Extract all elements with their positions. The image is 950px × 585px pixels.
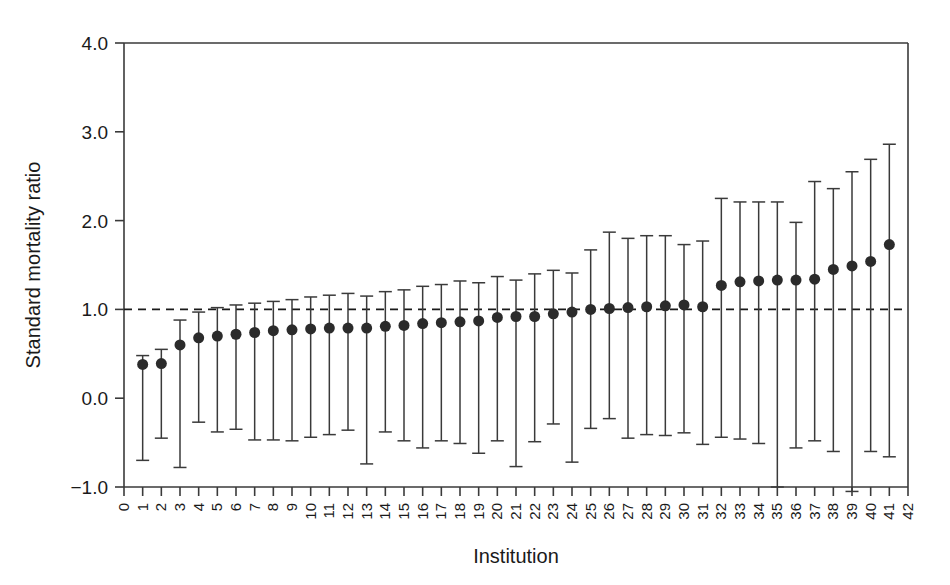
x-tick-label: 11 (320, 503, 337, 519)
x-tick-label: 30 (675, 503, 692, 520)
y-tick-label: 0.0 (82, 388, 108, 409)
x-tick-label: 26 (600, 503, 617, 520)
data-point-marker (231, 329, 242, 340)
data-point-marker (511, 311, 522, 322)
data-point-marker (156, 358, 167, 369)
data-point-marker (212, 331, 223, 342)
x-tick-label: 31 (694, 503, 711, 520)
x-tick-label: 16 (414, 503, 431, 520)
forest-plot-svg: −1.00.01.02.03.04.0 01234567891011121314… (0, 0, 950, 585)
data-point-marker (791, 275, 802, 286)
x-tick-label: 12 (339, 503, 356, 520)
x-tick-label: 25 (582, 503, 599, 520)
y-tick-label: 1.0 (82, 299, 108, 320)
x-tick-label: 3 (171, 503, 188, 511)
data-point-marker (697, 301, 708, 312)
x-tick-label: 27 (619, 503, 636, 520)
x-tick-label: 2 (152, 503, 169, 511)
x-tick-label: 33 (731, 503, 748, 520)
data-point-marker (809, 274, 820, 285)
x-tick-label: 4 (190, 503, 207, 511)
x-tick-label: 21 (507, 503, 524, 520)
y-axis-title: Standard mortality ratio (22, 162, 44, 369)
data-point-marker (716, 280, 727, 291)
data-point-marker (324, 323, 335, 334)
data-point-marker (567, 307, 578, 318)
x-tick-label: 1 (134, 503, 151, 511)
data-point-marker (361, 323, 372, 334)
data-point-marker (623, 302, 634, 313)
data-point-marker (735, 276, 746, 287)
x-tick-label: 6 (227, 503, 244, 511)
data-point-marker (884, 239, 895, 250)
data-point-marker (268, 325, 279, 336)
x-tick-label: 20 (488, 503, 505, 520)
x-tick-label: 41 (880, 503, 897, 520)
x-tick-label: 29 (656, 503, 673, 520)
x-tick-label: 0 (115, 503, 132, 511)
data-point-marker (604, 303, 615, 314)
x-tick-label: 5 (208, 503, 225, 511)
data-point-marker (175, 339, 186, 350)
data-point-marker (417, 318, 428, 329)
x-tick-label: 35 (768, 503, 785, 520)
x-tick-label: 9 (283, 503, 300, 511)
chart-figure: −1.00.01.02.03.04.0 01234567891011121314… (0, 0, 950, 585)
x-tick-label: 13 (358, 503, 375, 520)
data-point-marker (585, 304, 596, 315)
data-point-marker (343, 323, 354, 334)
data-point-marker (492, 312, 503, 323)
data-point-marker (436, 317, 447, 328)
x-tick-label: 36 (787, 503, 804, 520)
data-point-marker (641, 301, 652, 312)
x-tick-label: 37 (806, 503, 823, 520)
data-point-marker (847, 260, 858, 271)
x-tick-label: 18 (451, 503, 468, 520)
x-tick-label: 42 (899, 503, 916, 520)
data-point-marker (287, 324, 298, 335)
x-tick-label: 10 (302, 503, 319, 520)
x-tick-label: 34 (750, 503, 767, 520)
data-point-marker (473, 315, 484, 326)
data-point-marker (380, 321, 391, 332)
x-tick-label: 39 (843, 503, 860, 520)
data-point-marker (753, 275, 764, 286)
x-tick-label: 40 (862, 503, 879, 520)
data-point-marker (679, 299, 690, 310)
data-point-marker (249, 327, 260, 338)
x-tick-label: 7 (246, 503, 263, 511)
x-tick-label: 28 (638, 503, 655, 520)
data-point-marker (399, 320, 410, 331)
x-tick-label: 32 (712, 503, 729, 520)
x-axis-title: Institution (473, 545, 559, 567)
data-point-marker (772, 275, 783, 286)
data-point-marker (305, 323, 316, 334)
data-point-marker (137, 359, 148, 370)
data-point-marker (865, 256, 876, 267)
x-tick-label: 22 (526, 503, 543, 520)
x-tick-label: 17 (432, 503, 449, 520)
x-tick-label: 15 (395, 503, 412, 520)
x-tick-label: 14 (376, 503, 393, 520)
figure-background (0, 0, 950, 585)
x-tick-label: 23 (544, 503, 561, 520)
y-tick-label: 3.0 (82, 122, 108, 143)
x-tick-label: 24 (563, 503, 580, 520)
x-tick-label: 38 (824, 503, 841, 520)
y-tick-label: 2.0 (82, 211, 108, 232)
x-tick-label: 19 (470, 503, 487, 520)
x-tick-label: 8 (264, 503, 281, 511)
y-tick-label: 4.0 (82, 33, 108, 54)
data-point-marker (828, 264, 839, 275)
data-point-marker (529, 311, 540, 322)
data-point-marker (455, 316, 466, 327)
data-point-marker (660, 300, 671, 311)
data-point-marker (548, 308, 559, 319)
data-point-marker (193, 332, 204, 343)
y-tick-label: −1.0 (70, 477, 108, 498)
